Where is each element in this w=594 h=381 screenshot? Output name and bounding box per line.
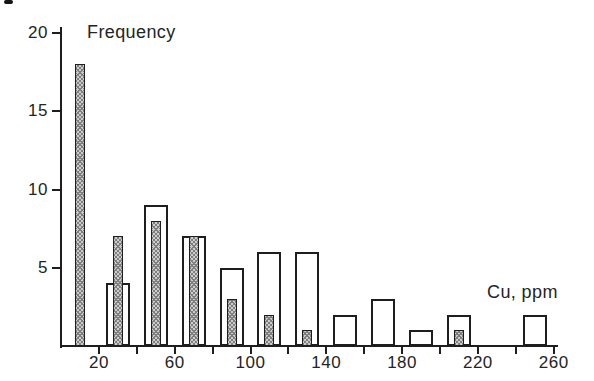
scan-artifact-mark <box>4 0 13 4</box>
hatched-bar <box>227 299 237 346</box>
hatched-bar <box>302 330 312 346</box>
histogram-figure: Frequency Cu, ppm 5101520206010014018022… <box>0 0 594 381</box>
hatched-bar <box>151 221 161 346</box>
x-axis-tick <box>439 346 441 354</box>
x-axis-tick-label: 180 <box>377 353 427 373</box>
x-axis-tick <box>363 346 365 354</box>
x-axis-tick-label: 220 <box>453 353 503 373</box>
x-axis-title: Cu, ppm <box>487 282 558 303</box>
y-axis-tick <box>52 110 61 112</box>
y-axis-tick-label: 5 <box>16 258 48 278</box>
y-axis-tick-label: 10 <box>16 180 48 200</box>
y-axis-tick <box>52 32 61 34</box>
x-axis-tick-label: 20 <box>74 353 124 373</box>
open-bar <box>409 330 433 346</box>
hatched-bar <box>454 330 464 346</box>
open-bar <box>333 315 357 346</box>
y-axis-tick <box>52 267 61 269</box>
y-axis-tick-label: 15 <box>16 101 48 121</box>
x-axis-tick <box>515 346 517 354</box>
y-axis-tick <box>52 189 61 191</box>
open-bar <box>371 299 395 346</box>
x-axis-tick-label: 260 <box>529 353 579 373</box>
x-axis-tick <box>136 346 138 354</box>
hatched-bar <box>113 236 123 346</box>
hatched-bar <box>75 64 85 346</box>
open-bar <box>523 315 547 346</box>
x-axis-tick <box>212 346 214 354</box>
hatched-bar <box>264 315 274 346</box>
y-axis-line <box>60 27 62 348</box>
x-axis-tick <box>287 346 289 354</box>
hatched-bar <box>189 236 199 346</box>
y-axis-title: Frequency <box>87 22 176 43</box>
x-axis-tick-label: 60 <box>150 353 200 373</box>
x-axis-tick-label: 100 <box>226 353 276 373</box>
x-axis-tick-label: 140 <box>301 353 351 373</box>
y-axis-tick-label: 20 <box>16 23 48 43</box>
